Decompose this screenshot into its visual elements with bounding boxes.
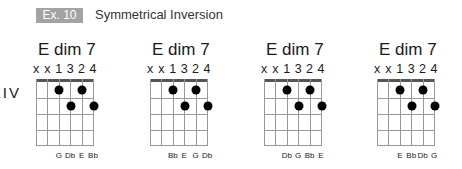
fret-line <box>150 98 207 99</box>
finger-dot <box>294 102 303 111</box>
note-name: E <box>182 151 187 161</box>
string-line <box>377 79 378 146</box>
finger-dot <box>192 86 201 95</box>
finger-number: 4 <box>202 62 213 76</box>
finger-number: 1 <box>281 62 292 76</box>
fret-line <box>377 114 434 115</box>
fretboard-grid <box>377 79 434 146</box>
fret-line <box>377 145 434 146</box>
note-name: G <box>295 151 301 161</box>
chord-name: E dim 7 <box>266 40 324 60</box>
note-name: E <box>318 151 323 161</box>
finger-number: 4 <box>429 62 440 76</box>
string-line <box>298 79 299 146</box>
string-line <box>434 79 435 146</box>
string-line <box>161 79 162 146</box>
fretboard-grid <box>150 79 207 146</box>
finger-dot <box>419 86 428 95</box>
note-name: Bb <box>168 151 178 161</box>
finger-dot <box>283 86 292 95</box>
string-line <box>150 79 151 146</box>
finger-number: x <box>259 62 270 76</box>
string-line <box>275 79 276 146</box>
fret-line <box>377 98 434 99</box>
chord-name: E dim 7 <box>152 40 210 60</box>
string-line <box>388 79 389 146</box>
string-line <box>411 79 412 146</box>
finger-number: 3 <box>406 62 417 76</box>
string-line <box>321 79 322 146</box>
note-name: Bb <box>406 151 416 161</box>
finger-dot <box>430 102 439 111</box>
fret-line <box>150 130 207 131</box>
chord-diagram: E dim 7xx1324XIVEBbDbG <box>0 0 114 169</box>
note-name: Db <box>202 151 212 161</box>
fret-line <box>264 114 321 115</box>
finger-number: x <box>372 62 383 76</box>
note-name: Db <box>417 151 427 161</box>
finger-number: 1 <box>394 62 405 76</box>
finger-dot <box>396 86 405 95</box>
fret-line <box>377 130 434 131</box>
fret-line <box>264 98 321 99</box>
finger-number: 3 <box>293 62 304 76</box>
example-title: Symmetrical Inversion <box>95 7 223 23</box>
finger-number: 3 <box>179 62 190 76</box>
note-name: Db <box>282 151 292 161</box>
finger-number: x <box>145 62 156 76</box>
finger-number: 1 <box>167 62 178 76</box>
finger-number: x <box>156 62 167 76</box>
nut-bar <box>264 79 321 82</box>
note-name: G <box>192 151 198 161</box>
finger-dot <box>203 102 212 111</box>
finger-number: 2 <box>190 62 201 76</box>
finger-dot <box>306 86 315 95</box>
fret-line <box>264 145 321 146</box>
chord-name: E dim 7 <box>379 40 437 60</box>
string-line <box>264 79 265 146</box>
fret-position-label: XIV <box>0 84 21 102</box>
fret-line <box>150 145 207 146</box>
nut-bar <box>377 79 434 82</box>
string-line <box>207 79 208 146</box>
nut-bar <box>150 79 207 82</box>
finger-dot <box>407 102 416 111</box>
fretboard-grid <box>264 79 321 146</box>
finger-dot <box>317 102 326 111</box>
finger-dot <box>169 86 178 95</box>
finger-number: x <box>383 62 394 76</box>
finger-number: 2 <box>304 62 315 76</box>
fret-line <box>264 130 321 131</box>
fret-line <box>150 114 207 115</box>
note-name: E <box>397 151 402 161</box>
finger-number: x <box>270 62 281 76</box>
string-line <box>184 79 185 146</box>
note-name: G <box>431 151 437 161</box>
finger-number: 4 <box>316 62 327 76</box>
note-name: Bb <box>305 151 315 161</box>
finger-dot <box>180 102 189 111</box>
finger-number: 2 <box>417 62 428 76</box>
